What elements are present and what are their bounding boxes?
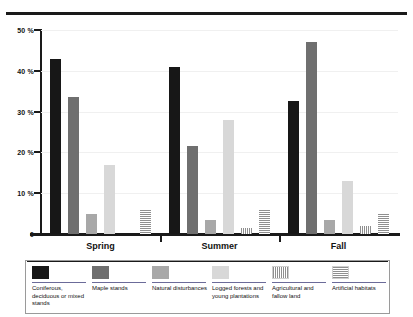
legend-item-label: Coniferous, deciduous or mixed stands (32, 285, 88, 308)
bar-summer-series4 (241, 228, 252, 234)
bar-spring-series5 (140, 210, 151, 234)
bar-fall-series1 (306, 42, 317, 234)
legend-item-2[interactable]: Natural disturbances (152, 266, 208, 293)
legend-swatch-icon-2 (152, 266, 169, 279)
legend-item-divider (32, 282, 86, 283)
legend-item-3[interactable]: Logged forests and young plantations (212, 266, 268, 300)
legend-item-1[interactable]: Maple stands (92, 266, 148, 293)
gridline (41, 112, 398, 113)
legend-swatch-icon-1 (92, 266, 109, 279)
y-axis-tick-mark (34, 192, 41, 194)
legend-item-label: Logged forests and young plantations (212, 285, 268, 300)
y-axis-tick-label: 30 % (17, 108, 34, 115)
legend-item-divider (152, 282, 206, 283)
gridline (41, 152, 398, 153)
y-axis-tick-mark (34, 151, 41, 153)
bar-summer-series3 (223, 120, 234, 234)
legend-swatch-icon-3 (212, 266, 229, 279)
plot-area (41, 30, 398, 234)
bar-summer-series5 (259, 210, 270, 234)
chart-legend: Coniferous, deciduous or mixed standsMap… (25, 260, 390, 314)
bar-spring-series0 (50, 59, 61, 234)
legend-item-divider (212, 282, 266, 283)
legend-item-divider (272, 282, 326, 283)
x-axis-group-label-spring: Spring (41, 241, 160, 251)
bar-fall-series0 (288, 101, 299, 234)
legend-item-4[interactable]: Agricultural and fallow land (272, 266, 328, 300)
y-axis-tick-mark (34, 111, 41, 113)
bar-fall-series2 (324, 220, 335, 234)
legend-item-0[interactable]: Coniferous, deciduous or mixed stands (32, 266, 88, 308)
bar-spring-series3 (104, 165, 115, 234)
x-axis-group-label-fall: Fall (279, 241, 398, 251)
legend-swatch-icon-5 (332, 266, 349, 279)
legend-item-5[interactable]: Artificial habitats (332, 266, 388, 293)
header-divider (6, 12, 407, 15)
bar-spring-series1 (68, 97, 79, 234)
bar-summer-series2 (205, 220, 216, 234)
y-axis-tick-label: 50 % (17, 27, 34, 34)
legend-item-divider (92, 282, 146, 283)
bar-summer-series1 (187, 146, 198, 234)
legend-item-label: Maple stands (92, 285, 148, 293)
legend-item-label: Natural disturbances (152, 285, 208, 293)
gridline (41, 71, 398, 72)
bar-fall-series5 (378, 214, 389, 234)
bar-fall-series3 (342, 181, 353, 234)
gridline (41, 30, 398, 31)
y-axis-tick-mark (34, 29, 41, 31)
y-axis-tick-label: 20 % (17, 149, 34, 156)
legend-item-label: Artificial habitats (332, 285, 388, 293)
bar-fall-series4 (360, 226, 371, 234)
legend-item-label: Agricultural and fallow land (272, 285, 328, 300)
legend-swatch-icon-4 (272, 266, 289, 279)
bar-spring-series2 (86, 214, 97, 234)
y-axis-tick-label: 10 % (17, 190, 34, 197)
bar-summer-series0 (169, 67, 180, 234)
legend-swatch-icon-0 (32, 266, 49, 279)
y-axis-tick-mark (34, 70, 41, 72)
legend-item-divider (332, 282, 386, 283)
y-axis-tick-mark (34, 233, 41, 235)
y-axis-tick-label: 40 % (17, 67, 34, 74)
x-axis-group-label-summer: Summer (160, 241, 279, 251)
